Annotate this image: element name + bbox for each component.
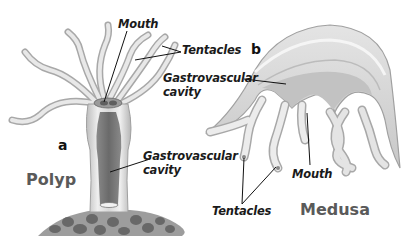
polyp-cavity-label-line2: cavity bbox=[143, 164, 181, 177]
polyp-mouth-label: Mouth bbox=[118, 18, 158, 31]
medusa-cavity-label-line1: Gastrovascular bbox=[163, 72, 258, 85]
polyp-illustration bbox=[12, 25, 185, 236]
polyp-title: Polyp bbox=[26, 170, 76, 189]
polyp-tentacles-label: Tentacles bbox=[182, 44, 241, 57]
polyp-cavity-label-line1: Gastrovascular bbox=[143, 150, 238, 163]
medusa-mouth-label: Mouth bbox=[292, 168, 332, 181]
medusa-title: Medusa bbox=[300, 200, 370, 219]
medusa-cavity-label-line2: cavity bbox=[163, 86, 201, 99]
medusa-letter: b bbox=[251, 41, 261, 57]
medusa-tentacles-label: Tentacles bbox=[212, 205, 271, 218]
polyp-letter: a bbox=[58, 137, 67, 153]
polyp-cavity bbox=[96, 112, 121, 204]
